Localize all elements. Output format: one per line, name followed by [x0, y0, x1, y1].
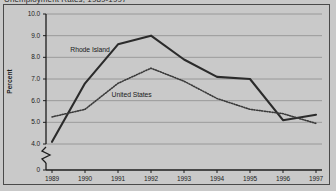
y-axis	[42, 14, 50, 170]
x-tick-label: 1995	[233, 175, 267, 182]
x-tick-label: 1990	[68, 175, 102, 182]
x-tick-label: 1996	[266, 175, 300, 182]
y-tick-label: 10.0	[14, 10, 40, 17]
axis-break-symbol	[42, 147, 50, 163]
x-tick-label: 1992	[134, 175, 168, 182]
chart-page: Unemployment Rates, 1989-1997 Percent 10…	[0, 0, 336, 191]
x-tick-label: 1997	[299, 175, 333, 182]
y-tick-label: 6.0	[14, 97, 40, 104]
x-tick-label: 1993	[167, 175, 201, 182]
series-label: United States	[112, 91, 152, 98]
x-tick-label: 1991	[101, 175, 135, 182]
y-tick-label: 4.0	[14, 140, 40, 147]
y-tick-label: 8.0	[14, 53, 40, 60]
x-tick-label: 1989	[35, 175, 69, 182]
x-axis	[46, 170, 322, 173]
series-label: Rhode Island	[70, 46, 109, 53]
plot-area	[0, 0, 336, 191]
y-tick-label: 7.0	[14, 75, 40, 82]
x-tick-label: 1994	[200, 175, 234, 182]
y-axis-title: Percent	[6, 59, 13, 105]
y-tick-label: 0	[14, 166, 40, 173]
y-tick-label: 9.0	[14, 32, 40, 39]
chart-svg	[0, 0, 336, 191]
y-tick-label: 5.0	[14, 118, 40, 125]
